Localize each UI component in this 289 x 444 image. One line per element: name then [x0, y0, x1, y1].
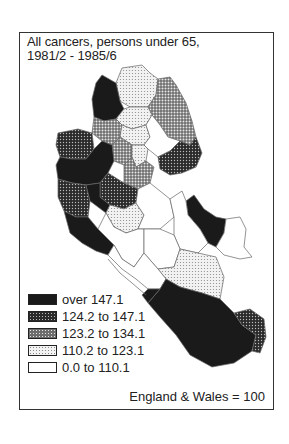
- legend-label: 110.2 to 123.1: [62, 343, 144, 358]
- legend-item-over-147: over 147.1: [28, 291, 145, 308]
- legend-label: 123.2 to 134.1: [62, 326, 145, 341]
- swatch-light-dots-icon: [28, 345, 57, 356]
- swatch-medium-dots-icon: [28, 328, 57, 339]
- swatch-black-icon: [28, 294, 57, 305]
- swatch-dense-dots-icon: [28, 311, 57, 322]
- swatch-white-icon: [28, 362, 57, 373]
- ward-north-top: [116, 65, 158, 107]
- reference-note: England & Wales = 100: [129, 389, 265, 404]
- ward-white-mid: [136, 183, 174, 229]
- legend-label: 124.2 to 147.1: [62, 309, 145, 324]
- ward-west-dense-lower: [58, 179, 90, 217]
- legend-item-124-147: 124.2 to 147.1: [28, 308, 145, 325]
- ward-far-west: [56, 129, 94, 159]
- legend: over 147.1 124.2 to 147.1 123.2 to 134.1…: [28, 291, 145, 376]
- map-frame: All cancers, persons under 65, 1981/2 - …: [19, 32, 274, 410]
- legend-label: over 147.1: [62, 292, 123, 307]
- legend-item-0-110: 0.0 to 110.1: [28, 359, 145, 376]
- legend-item-123-134: 123.2 to 134.1: [28, 325, 145, 342]
- legend-label: 0.0 to 110.1: [62, 360, 130, 375]
- legend-item-110-123: 110.2 to 123.1: [28, 342, 145, 359]
